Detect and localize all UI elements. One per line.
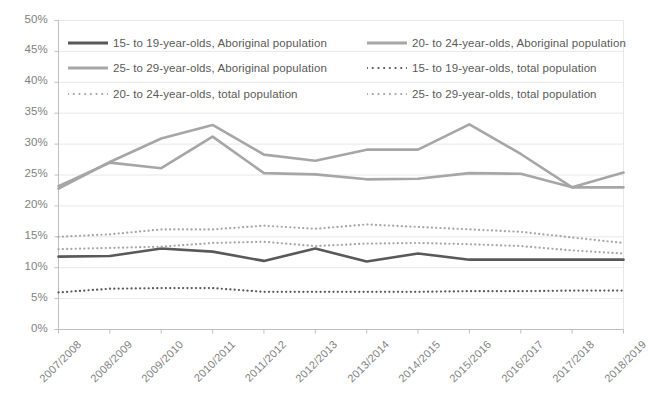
legend-item[interactable]: 25- to 29-year-olds, total population <box>367 87 597 100</box>
legend-item-label: 25- to 29-year-olds, Aboriginal populati… <box>113 62 327 74</box>
y-axis-tick-label: 5% <box>2 291 48 303</box>
series-line-5 <box>59 224 624 243</box>
legend-swatch-icon <box>367 89 407 99</box>
legend-swatch-icon <box>68 38 108 48</box>
y-axis-tick-label: 30% <box>2 136 48 148</box>
y-axis-tick-label: 10% <box>2 260 48 272</box>
legend-item[interactable]: 20- to 24-year-olds, total population <box>68 87 298 100</box>
legend-swatch-icon <box>68 89 108 99</box>
y-axis-tick-label: 45% <box>2 43 48 55</box>
legend-swatch-icon <box>68 63 108 73</box>
legend-item-label: 20- to 24-year-olds, Aboriginal populati… <box>412 37 626 49</box>
y-axis-tick-label: 40% <box>2 74 48 86</box>
legend-item-label: 15- to 19-year-olds, Aboriginal populati… <box>113 37 327 49</box>
legend-item[interactable]: 15- to 19-year-olds, total population <box>367 61 597 74</box>
series-line-0 <box>59 249 624 262</box>
y-axis-tick-label: 15% <box>2 229 48 241</box>
y-axis-tick-label: 0% <box>2 322 48 334</box>
legend-swatch-icon <box>367 63 407 73</box>
y-axis-tick-label: 35% <box>2 105 48 117</box>
series-line-3 <box>59 288 624 292</box>
legend-item[interactable]: 15- to 19-year-olds, Aboriginal populati… <box>68 36 327 49</box>
legend-item-label: 25- to 29-year-olds, total population <box>412 88 597 100</box>
y-axis-tick-label: 20% <box>2 198 48 210</box>
legend-item[interactable]: 20- to 24-year-olds, Aboriginal populati… <box>367 36 626 49</box>
legend-swatch-icon <box>367 38 407 48</box>
y-axis-tick-label: 50% <box>2 13 48 25</box>
legend-item[interactable]: 25- to 29-year-olds, Aboriginal populati… <box>68 61 327 74</box>
legend-item-label: 15- to 19-year-olds, total population <box>412 62 597 74</box>
y-axis-tick-label: 25% <box>2 167 48 179</box>
legend-item-label: 20- to 24-year-olds, total population <box>113 88 298 100</box>
